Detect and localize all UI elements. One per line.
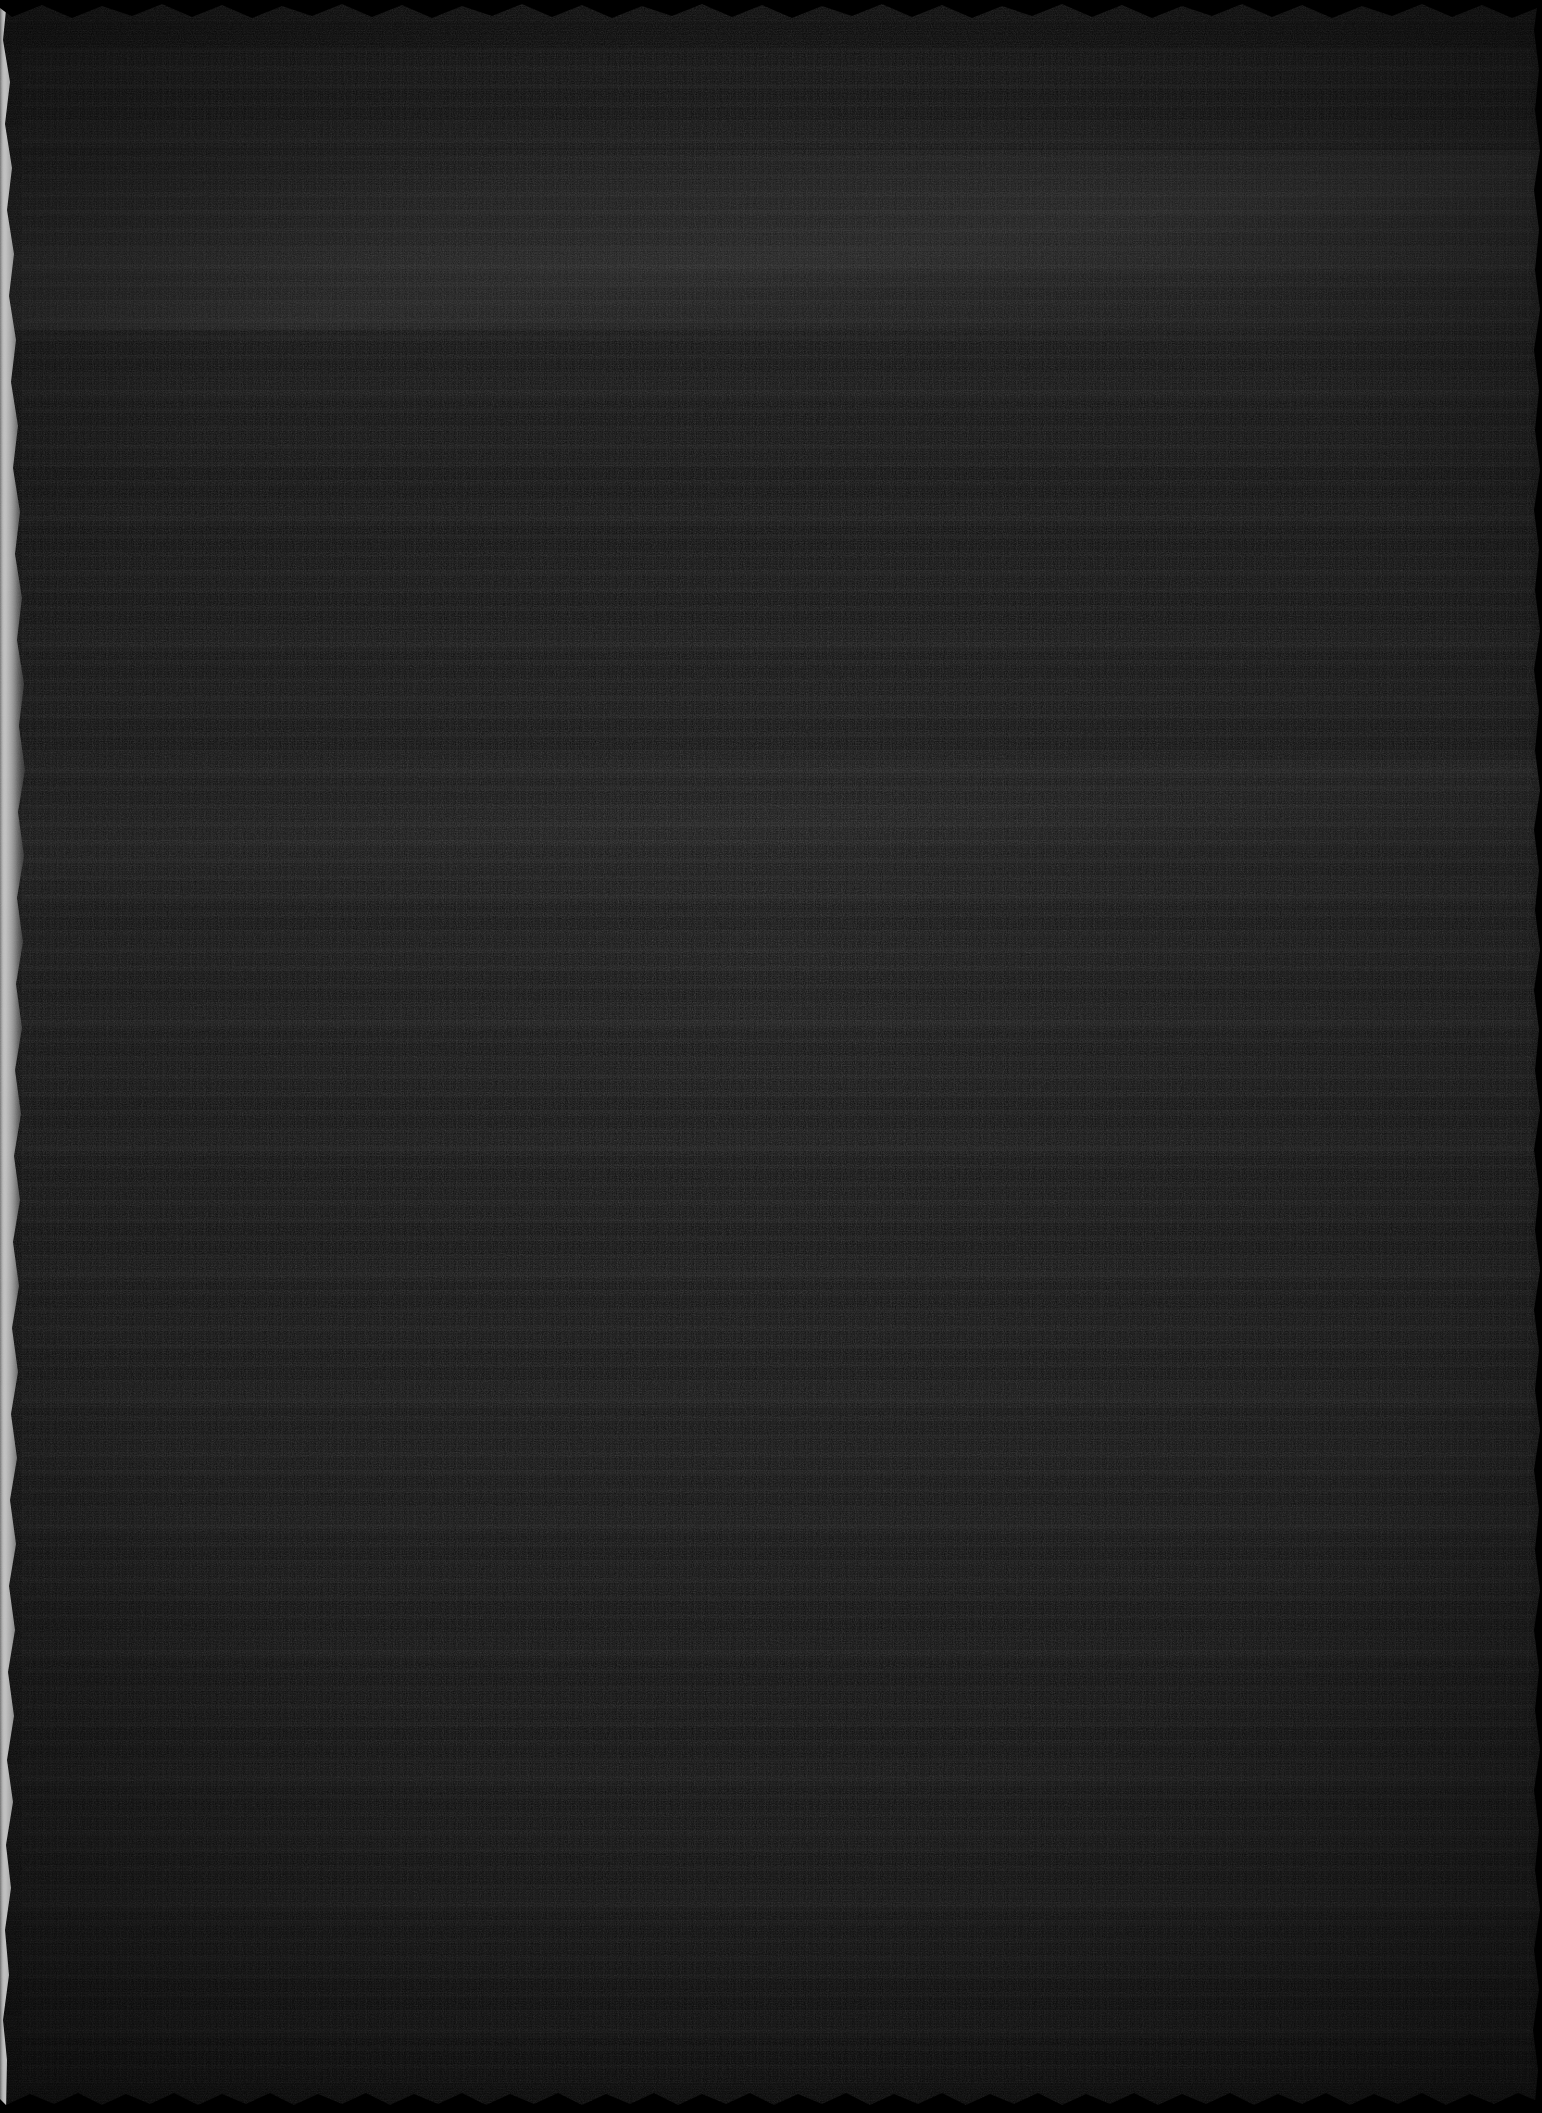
scanned-document-page: Severely underexposed scan of a document…: [0, 0, 1542, 2113]
sensor-grain: [0, 0, 1542, 2113]
